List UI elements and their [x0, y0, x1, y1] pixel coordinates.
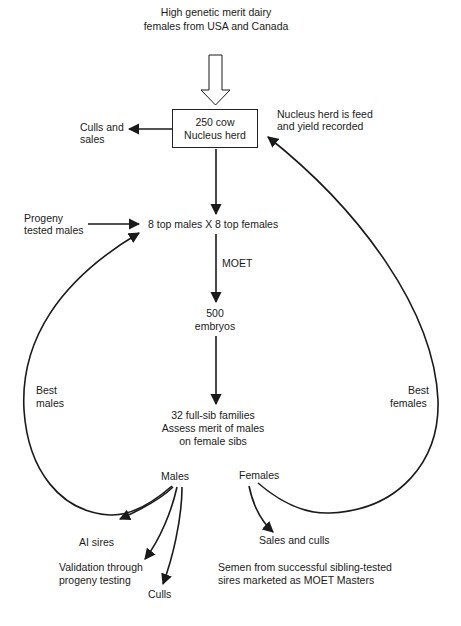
footnote-line1: Semen from successful sibling-tested: [218, 561, 392, 574]
culls-and-sales-line2: sales: [80, 133, 105, 146]
male-culls-label: Culls: [148, 588, 171, 601]
ai-sires-label: AI sires: [79, 536, 114, 549]
embryos-line2: embryos: [195, 320, 235, 333]
best-females-line2: females: [390, 397, 427, 410]
nucleus-herd-box: 250 cow Nucleus herd: [172, 109, 258, 148]
progeny-tested-line2: tested males: [24, 224, 84, 237]
source-label-line2: females from USA and Canada: [144, 20, 289, 33]
families-line3: on female sibs: [179, 435, 247, 448]
nucleus-note-line2: and yield recorded: [277, 120, 363, 133]
source-label-line1: High genetic merit dairy: [161, 6, 271, 19]
nucleus-note-line1: Nucleus herd is feed: [277, 108, 373, 121]
validation-line1: Validation through: [59, 561, 143, 574]
footnote-line2: sires marketed as MOET Masters: [218, 574, 374, 587]
nucleus-box-line2: Nucleus herd: [184, 129, 246, 142]
females-label: Females: [239, 469, 279, 482]
best-males-line1: Best: [36, 384, 57, 397]
families-line1: 32 full-sib families: [171, 409, 254, 422]
best-females-line1: Best: [408, 384, 429, 397]
import-hollow-arrow: [201, 55, 230, 105]
best-males-line2: males: [36, 397, 64, 410]
flow-diagram-canvas: [0, 0, 461, 626]
nucleus-box-line1: 250 cow: [195, 116, 234, 129]
arrow-to-validation: [145, 487, 177, 559]
moet-label: MOET: [222, 257, 252, 270]
culls-and-sales-line1: Culls and: [80, 121, 124, 134]
validation-line2: progeny testing: [59, 574, 131, 587]
best-males-loop: [24, 233, 172, 515]
embryos-line1: 500: [206, 307, 224, 320]
males-label: Males: [161, 470, 189, 483]
progeny-tested-line1: Progeny: [24, 212, 63, 225]
female-sales-culls-label: Sales and culls: [259, 534, 330, 547]
families-line2: Assess merit of males: [162, 422, 265, 435]
best-females-loop: [258, 137, 438, 513]
mating-label: 8 top males X 8 top females: [148, 218, 278, 231]
